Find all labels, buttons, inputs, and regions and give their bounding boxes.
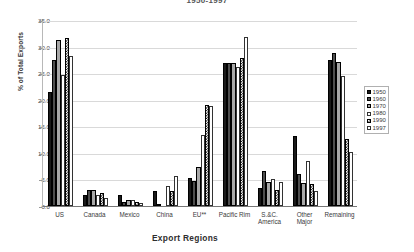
legend-swatch-icon bbox=[367, 112, 371, 116]
x-axis-tick: Canada bbox=[77, 211, 112, 218]
legend-item[interactable]: 1997 bbox=[367, 124, 386, 131]
x-axis-tick-line: America bbox=[252, 218, 287, 225]
legend-swatch-icon bbox=[367, 104, 371, 108]
legend-label: 1970 bbox=[373, 103, 386, 110]
legend-item[interactable]: 1950 bbox=[367, 89, 386, 96]
bar-chart: 1950-1997 % of Total Exports 0.05.010.01… bbox=[0, 0, 414, 252]
x-axis-tick: S.&C.America bbox=[252, 211, 287, 225]
legend-label: 1997 bbox=[373, 125, 386, 132]
plot-area bbox=[42, 21, 357, 207]
legend-swatch-icon bbox=[367, 119, 371, 123]
x-axis-tick-line: EU** bbox=[182, 211, 217, 218]
legend: 195019601970198019901997 bbox=[364, 86, 389, 134]
x-axis-tick: US bbox=[42, 211, 77, 218]
legend-item[interactable]: 1960 bbox=[367, 96, 386, 103]
x-axis-tick-line: Major bbox=[287, 218, 322, 225]
bar-group bbox=[78, 21, 113, 206]
legend-label: 1950 bbox=[373, 89, 386, 96]
legend-label: 1980 bbox=[373, 110, 386, 117]
x-axis-tick: Pacific Rim bbox=[217, 211, 252, 218]
legend-item[interactable]: 1990 bbox=[367, 117, 386, 124]
bar bbox=[174, 176, 178, 206]
bar-group bbox=[113, 21, 148, 206]
legend-swatch-icon bbox=[367, 90, 371, 94]
bar-group bbox=[253, 21, 288, 206]
legend-swatch-icon bbox=[367, 126, 371, 130]
bar-group bbox=[148, 21, 183, 206]
x-axis-tick-line: S.&C. bbox=[252, 211, 287, 218]
bar-group bbox=[218, 21, 253, 206]
x-axis-tick: China bbox=[147, 211, 182, 218]
x-axis-tick-line: Pacific Rim bbox=[217, 211, 252, 218]
bar-group bbox=[183, 21, 218, 206]
bar bbox=[279, 182, 283, 206]
bar-group bbox=[288, 21, 323, 206]
gridline bbox=[43, 206, 357, 207]
bar-group bbox=[43, 21, 78, 206]
x-axis-tick-line: Mexico bbox=[112, 211, 147, 218]
x-axis-tick: EU** bbox=[182, 211, 217, 218]
bar bbox=[349, 152, 353, 206]
bar bbox=[157, 204, 161, 206]
bar bbox=[139, 203, 143, 206]
legend-label: 1960 bbox=[373, 96, 386, 103]
x-axis-tick-line: Other bbox=[287, 211, 322, 218]
legend-swatch-icon bbox=[367, 97, 371, 101]
legend-item[interactable]: 1970 bbox=[367, 103, 386, 110]
bar bbox=[244, 37, 248, 206]
x-axis-label: Export Regions bbox=[0, 233, 370, 243]
bar bbox=[69, 56, 73, 206]
x-axis-tick-line: Remaining bbox=[322, 211, 357, 218]
x-axis-tick: Mexico bbox=[112, 211, 147, 218]
legend-label: 1990 bbox=[373, 117, 386, 124]
legend-item[interactable]: 1980 bbox=[367, 110, 386, 117]
x-axis-tick: OtherMajor bbox=[287, 211, 322, 225]
x-axis-tick: Remaining bbox=[322, 211, 357, 218]
x-axis-tick-line: US bbox=[42, 211, 77, 218]
x-axis-tick-line: Canada bbox=[77, 211, 112, 218]
chart-title: 1950-1997 bbox=[0, 0, 414, 3]
x-axis-tick-line: China bbox=[147, 211, 182, 218]
bar bbox=[104, 198, 108, 207]
bar bbox=[209, 106, 213, 206]
y-axis-tickmark bbox=[39, 207, 42, 208]
bar-group bbox=[323, 21, 358, 206]
bar bbox=[314, 191, 318, 206]
